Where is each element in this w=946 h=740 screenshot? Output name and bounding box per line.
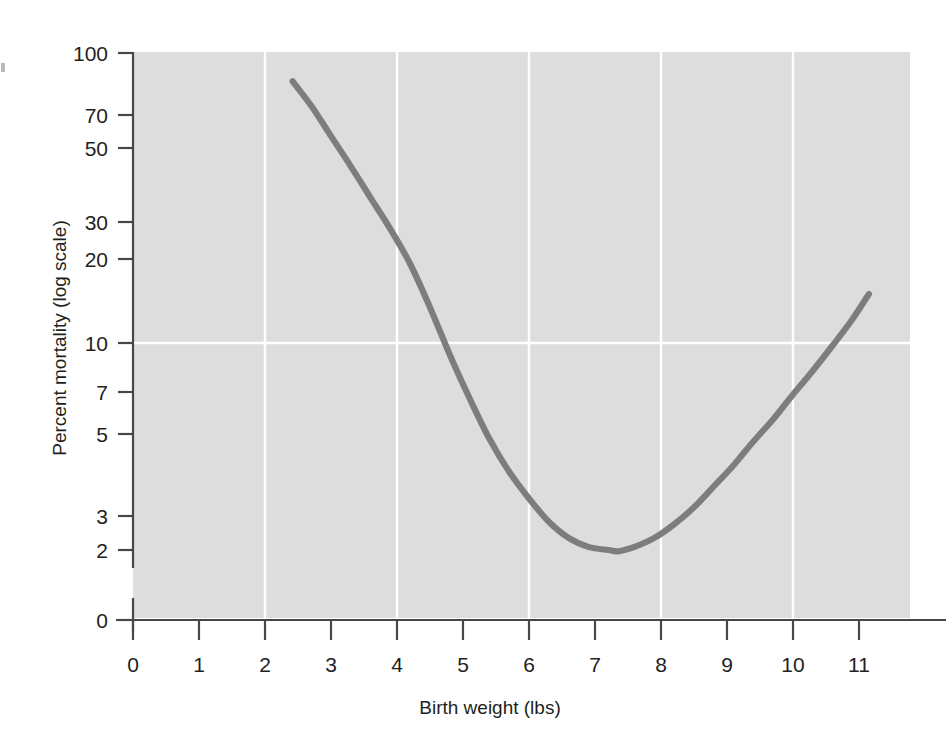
x-tick-label-6: 6	[523, 653, 535, 676]
x-tick-label-9: 9	[721, 653, 733, 676]
x-tick-label-1: 1	[193, 653, 205, 676]
y-tick-label-20: 20	[85, 248, 108, 271]
x-tick-label-8: 8	[655, 653, 667, 676]
x-tick-label-7: 7	[589, 653, 601, 676]
x-tick-label-2: 2	[259, 653, 271, 676]
scan-speck-artifact	[1, 63, 5, 72]
y-tick-label-10: 10	[85, 332, 108, 355]
chart-figure: 100 70 50 30 20 10 7 5 3 2 0	[0, 0, 946, 740]
x-tick-label-11: 11	[848, 653, 870, 676]
y-tick-label-100: 100	[73, 42, 108, 65]
y-axis-title: Percent mortality (log scale)	[49, 220, 70, 455]
x-axis-title: Birth weight (lbs)	[419, 697, 561, 718]
y-tick-label-0: 0	[96, 609, 108, 632]
y-tick-label-7: 7	[96, 381, 108, 404]
x-tick-label-4: 4	[391, 653, 403, 676]
y-tick-label-5: 5	[96, 423, 108, 446]
y-tick-label-3: 3	[96, 505, 108, 528]
x-tick-label-5: 5	[457, 653, 469, 676]
x-tick-label-0: 0	[127, 653, 139, 676]
y-tick-label-50: 50	[85, 137, 108, 160]
y-tick-label-30: 30	[85, 211, 108, 234]
y-tick-label-2: 2	[96, 539, 108, 562]
x-tick-label-10: 10	[781, 653, 804, 676]
y-tick-label-70: 70	[85, 104, 108, 127]
x-tick-label-3: 3	[325, 653, 337, 676]
